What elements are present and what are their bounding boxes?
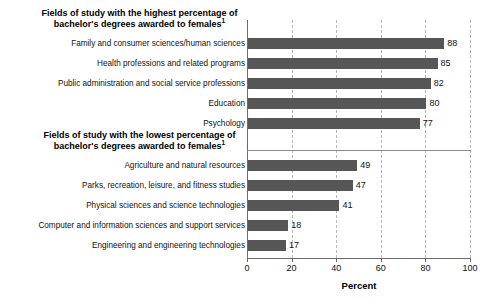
bar	[248, 180, 353, 191]
x-tick-label-0: 0	[244, 263, 249, 273]
bar-row: Agriculture and natural resources49	[0, 156, 499, 176]
bar-row: Physical sciences and science technologi…	[0, 196, 499, 216]
bar	[248, 118, 420, 129]
bar-row: Health professions and related programs8…	[0, 54, 499, 74]
x-tick-0	[247, 258, 248, 262]
bar	[248, 58, 438, 69]
bar-value-label: 47	[356, 180, 366, 191]
section-heading-highest-line1: Fields of study with the highest percent…	[41, 8, 237, 18]
bar-row: Public administration and social service…	[0, 74, 499, 94]
x-tick-label-100: 100	[462, 263, 477, 273]
bar-value-label: 18	[291, 220, 301, 231]
bar-chart: Fields of study with the highest percent…	[0, 0, 499, 299]
bar-value-label: 17	[289, 240, 299, 251]
bar-value-label: 41	[342, 200, 352, 211]
bar-value-label: 88	[447, 38, 457, 49]
bar	[248, 220, 288, 231]
bar-category-label: Agriculture and natural resources	[124, 160, 245, 171]
bar	[248, 78, 431, 89]
x-tick-label-80: 80	[420, 263, 430, 273]
x-axis-title: Percent	[247, 280, 471, 291]
footnote-marker: 1	[222, 139, 226, 146]
bar-category-label: Family and consumer sciences/human scien…	[71, 38, 245, 49]
x-tick-100	[470, 258, 471, 262]
bar-category-label: Health professions and related programs	[97, 58, 245, 69]
bar	[248, 98, 426, 109]
x-tick-label-40: 40	[331, 263, 341, 273]
bar-row: Computer and information sciences and su…	[0, 216, 499, 236]
x-tick-60	[381, 258, 382, 262]
bar	[248, 160, 357, 171]
bar-row: Parks, recreation, leisure, and fitness …	[0, 176, 499, 196]
bar-value-label: 49	[360, 160, 370, 171]
section-divider	[247, 150, 471, 151]
bar-category-label: Engineering and engineering technologies	[92, 240, 245, 251]
bar	[248, 38, 444, 49]
bar-category-label: Education	[209, 98, 245, 109]
x-tick-20	[292, 258, 293, 262]
bar-row: Education80	[0, 94, 499, 114]
bar	[248, 200, 339, 211]
bar-category-label: Parks, recreation, leisure, and fitness …	[82, 180, 245, 191]
bar-category-label: Physical sciences and science technologi…	[86, 200, 245, 211]
bar-category-label: Public administration and social service…	[58, 78, 245, 89]
section-heading-lowest-line2: bachelor's degrees awarded to females	[54, 141, 222, 151]
bar-value-label: 77	[423, 118, 433, 129]
bar-category-label: Computer and information sciences and su…	[38, 220, 245, 231]
bar-row: Family and consumer sciences/human scien…	[0, 34, 499, 54]
bar-row: Psychology77	[0, 114, 499, 134]
bar-category-label: Psychology	[203, 118, 245, 129]
x-axis-line	[247, 258, 471, 259]
section-heading-highest-line2: bachelor's degrees awarded to females	[54, 19, 222, 29]
bar-value-label: 82	[434, 78, 444, 89]
bar	[248, 240, 286, 251]
section-heading-highest: Fields of study with the highest percent…	[34, 8, 245, 30]
x-tick-label-20: 20	[287, 263, 297, 273]
bar-value-label: 80	[429, 98, 439, 109]
x-tick-80	[425, 258, 426, 262]
footnote-marker: 1	[222, 17, 226, 24]
bar-value-label: 85	[441, 58, 451, 69]
bar-row: Engineering and engineering technologies…	[0, 236, 499, 256]
x-tick-label-60: 60	[376, 263, 386, 273]
x-tick-40	[336, 258, 337, 262]
